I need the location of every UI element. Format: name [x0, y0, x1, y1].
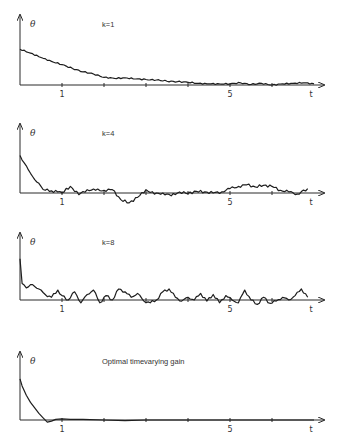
chart-figure: 15tθk=1 15tθk=4 15tθk=8 15tθOptimal time… [0, 0, 342, 447]
y-axis-label: θ [30, 19, 36, 29]
series-line [20, 379, 314, 422]
panel-k1: 15tθk=1 [20, 15, 324, 99]
x-tick-label: 5 [227, 198, 232, 207]
panel-title: k=1 [102, 20, 114, 29]
x-axis-label: t [309, 90, 312, 99]
y-axis-label: θ [30, 237, 36, 247]
x-tick-label: 5 [227, 90, 232, 99]
series-line [20, 49, 314, 85]
panel-title: k=8 [102, 238, 114, 247]
y-axis-label: θ [30, 128, 36, 138]
panel-title: Optimal timevarying gain [102, 357, 185, 366]
x-axis-label: t [309, 198, 312, 207]
panel-title: k=4 [102, 129, 114, 138]
x-tick-label: 1 [59, 305, 64, 314]
panel-k8: 15tθk=8 [20, 233, 324, 314]
x-tick-label: 5 [227, 305, 232, 314]
x-tick-label: 1 [59, 90, 64, 99]
x-axis-label: t [309, 425, 312, 434]
panel-k4: 15tθk=4 [20, 124, 324, 207]
series-line [20, 156, 308, 203]
x-axis-label: t [309, 305, 312, 314]
x-tick-label: 1 [59, 198, 64, 207]
y-axis-label: θ [30, 356, 36, 366]
panel-optimal-gain: 15tθOptimal timevarying gain [20, 352, 324, 434]
series-line [20, 259, 308, 305]
x-tick-label: 1 [59, 425, 64, 434]
x-tick-label: 5 [227, 425, 232, 434]
